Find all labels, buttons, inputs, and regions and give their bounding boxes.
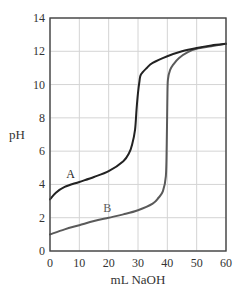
x-tick-label: 40 xyxy=(161,256,173,270)
y-axis-label: pH xyxy=(9,127,25,142)
y-tick-label: 2 xyxy=(39,211,45,225)
y-tick-label: 4 xyxy=(39,177,45,191)
y-tick-label: 10 xyxy=(33,78,45,92)
x-axis-label: mL NaOH xyxy=(111,272,166,287)
curve-a-label: A xyxy=(66,167,75,181)
y-tick-label: 14 xyxy=(33,11,45,25)
x-tick-label: 30 xyxy=(132,256,144,270)
y-axis-ticks: 02468101214 xyxy=(33,11,45,258)
y-tick-label: 12 xyxy=(33,44,45,58)
y-tick-label: 0 xyxy=(39,244,45,258)
x-axis-ticks: 0102030405060 xyxy=(47,256,232,270)
x-tick-label: 20 xyxy=(103,256,115,270)
x-tick-label: 0 xyxy=(47,256,53,270)
x-tick-label: 10 xyxy=(73,256,85,270)
x-tick-label: 50 xyxy=(191,256,203,270)
y-tick-label: 8 xyxy=(39,111,45,125)
curve-b-label: B xyxy=(103,201,111,215)
grid-lines xyxy=(50,18,226,251)
titration-chart: 0102030405060 02468101214 mL NaOH pH A B xyxy=(0,0,246,292)
x-tick-label: 60 xyxy=(220,256,232,270)
y-tick-label: 6 xyxy=(39,144,45,158)
